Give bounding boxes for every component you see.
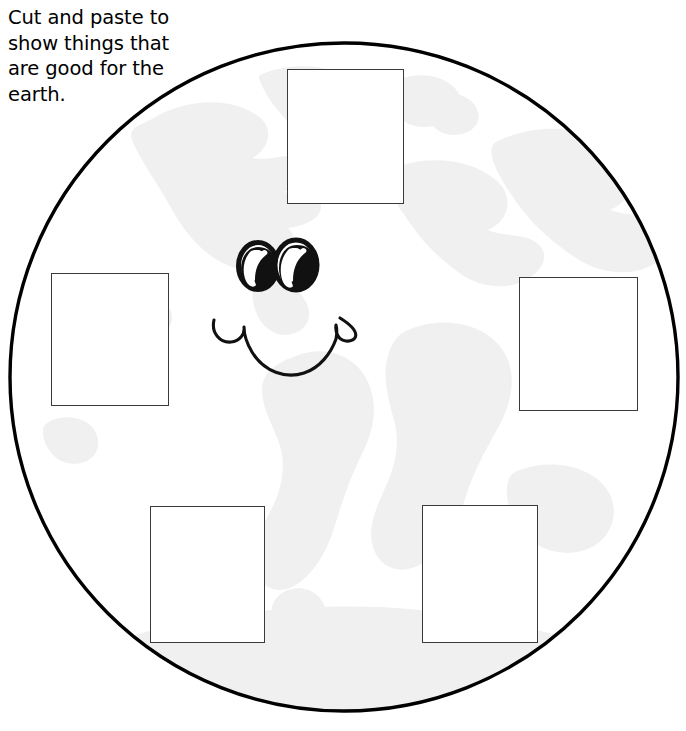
eye-right xyxy=(275,240,318,290)
paste-box-top[interactable] xyxy=(287,69,404,204)
paste-box-left[interactable] xyxy=(51,273,169,406)
paste-box-bottom-right[interactable] xyxy=(422,505,538,643)
worksheet-page: Cut and paste to show things that are go… xyxy=(0,0,686,731)
paste-box-bottom-left[interactable] xyxy=(150,506,265,643)
eye-left xyxy=(239,243,278,290)
instruction-text: Cut and paste to show things that are go… xyxy=(8,5,198,107)
paste-box-right[interactable] xyxy=(519,277,638,411)
